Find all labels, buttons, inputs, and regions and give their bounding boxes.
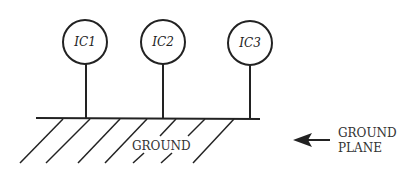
ic1-label: IC1 [73,35,96,49]
ground-label: GROUND [132,139,191,153]
ic3-label: IC3 [238,36,261,50]
ground-line [36,118,260,119]
ground-plane-diagram: IC1 IC2 IC3 GROUND [0,0,409,176]
ic3-node: IC3 [228,21,272,119]
ground-plane-label-line1: GROUND [338,126,397,140]
arrow-left-icon [293,133,330,147]
ic2-label: IC2 [151,35,174,49]
ic1-node: IC1 [63,20,107,118]
diagram-svg: IC1 IC2 IC3 GROUND [0,0,409,176]
ground-plane-label-line2: PLANE [338,141,382,155]
ic2-node: IC2 [141,20,185,119]
ground-hatching [20,119,234,163]
